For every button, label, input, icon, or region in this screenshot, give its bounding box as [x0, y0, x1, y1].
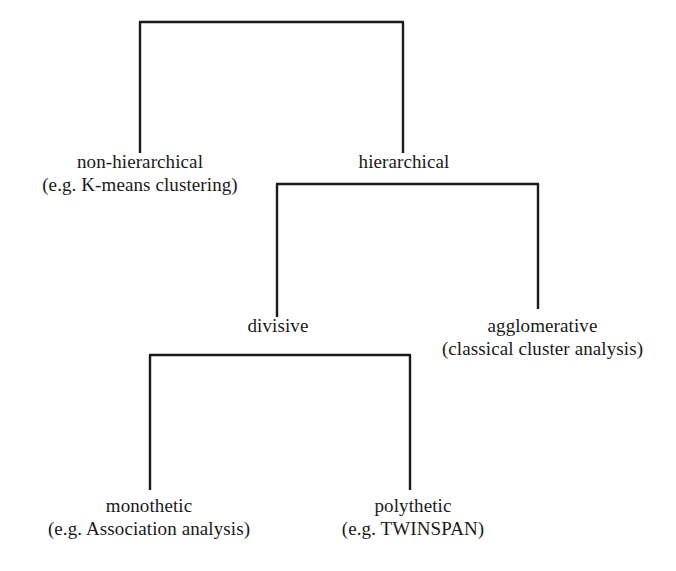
node-monothetic: monothetic (e.g. Association analysis): [21, 494, 277, 540]
node-agglomerative: agglomerative (classical cluster analysi…: [419, 314, 666, 360]
node-monothetic-example: (e.g. Association analysis): [21, 517, 277, 540]
node-polythetic: polythetic (e.g. TWINSPAN): [303, 494, 523, 540]
node-monothetic-title: monothetic: [21, 494, 277, 517]
clustering-classification-diagram: non-hierarchical (e.g. K-means clusterin…: [0, 0, 676, 571]
node-hierarchical-title: hierarchical: [322, 150, 486, 173]
node-polythetic-example: (e.g. TWINSPAN): [303, 517, 523, 540]
node-polythetic-title: polythetic: [303, 494, 523, 517]
node-non-hierarchical-title: non-hierarchical: [9, 150, 271, 173]
node-hierarchical: hierarchical: [322, 150, 486, 173]
node-divisive-title: divisive: [206, 314, 350, 337]
node-non-hierarchical-example: (e.g. K-means clustering): [9, 173, 271, 196]
node-agglomerative-example: (classical cluster analysis): [419, 337, 666, 360]
connector-lines: [0, 0, 676, 571]
node-agglomerative-title: agglomerative: [419, 314, 666, 337]
node-divisive: divisive: [206, 314, 350, 337]
node-non-hierarchical: non-hierarchical (e.g. K-means clusterin…: [9, 150, 271, 196]
